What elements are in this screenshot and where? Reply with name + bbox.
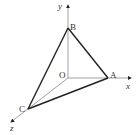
point-c-label: C [19, 104, 25, 114]
edge-ab [68, 28, 108, 78]
tetrahedron-diagram: y x z B O A C [0, 0, 138, 135]
point-a-label: A [110, 70, 117, 80]
edge-ca [28, 78, 108, 109]
edge-bc [28, 28, 68, 109]
point-b-label: B [70, 22, 76, 32]
x-axis-label: x [125, 81, 130, 91]
point-o-label: O [59, 70, 66, 80]
z-axis-label: z [9, 123, 14, 133]
y-axis-label: y [57, 1, 62, 11]
